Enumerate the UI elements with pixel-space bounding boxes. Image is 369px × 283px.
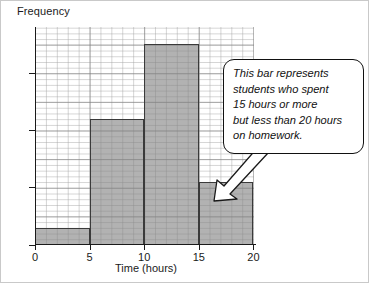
x-tick-0 [35, 244, 36, 250]
y-tick-0 [29, 245, 35, 246]
x-tick-20 [253, 244, 254, 250]
plot-area [35, 27, 254, 245]
callout-line-3: 15 hours or more [233, 97, 355, 113]
callout-line-5: on homework. [233, 128, 355, 144]
x-axis-title: Time (hours) [1, 262, 291, 274]
callout-line-2: students who spent [233, 82, 355, 98]
y-tick-30 [29, 73, 35, 74]
bar-10-15 [144, 44, 199, 245]
bar-5-10 [90, 119, 145, 245]
callout-line-4: but less than 20 hours [233, 113, 355, 129]
histogram-figure: Frequency 0 5 10 15 20 0 10 20 30 Time (… [0, 0, 369, 283]
y-tick-10 [29, 187, 35, 188]
y-axis-title: Frequency [17, 5, 70, 17]
bar-0-5 [35, 228, 90, 245]
y-tick-20 [29, 130, 35, 131]
callout-line-1: This bar represents [233, 66, 355, 82]
callout-box: This bar represents students who spent 1… [223, 59, 364, 154]
callout-arrow-icon [204, 147, 276, 205]
x-tick-10 [144, 244, 145, 250]
x-tick-5 [90, 244, 91, 250]
x-tick-15 [199, 244, 200, 250]
y-axis-line [35, 27, 36, 245]
x-axis-line [35, 244, 256, 245]
